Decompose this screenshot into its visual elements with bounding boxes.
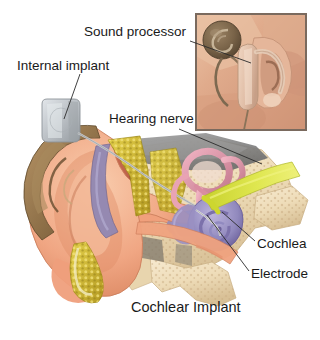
label-electrode: Electrode [251,267,308,281]
hearing-nerve-leader [179,129,262,164]
label-sound-processor: Sound processor [84,25,186,39]
label-hearing-nerve: Hearing nerve [109,112,194,126]
electrode-leader [207,215,249,271]
internal-implant-leader [64,74,80,119]
label-internal-implant: Internal implant [17,59,109,73]
cochlear-implant-figure: Sound processor Internal implant Hearing… [0,0,320,340]
label-cochlea: Cochlea [257,237,307,251]
sound-processor-leader [190,41,251,63]
cochlea-leader [222,212,255,241]
leader-lines [0,0,320,340]
figure-title: Cochlear Implant [131,300,241,315]
